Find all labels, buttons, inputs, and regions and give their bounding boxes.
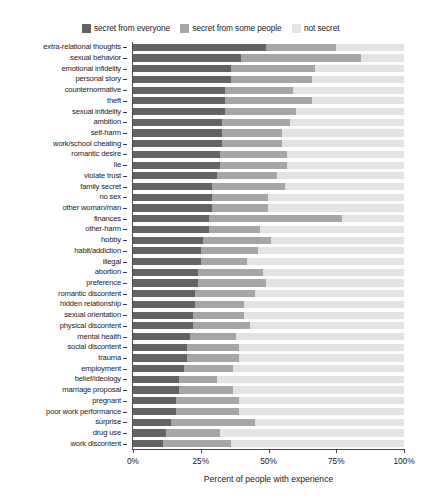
y-axis-tick — [123, 444, 127, 445]
legend-label: not secret — [304, 24, 339, 32]
bar-segment — [220, 429, 404, 436]
y-axis-label: abortion — [95, 268, 121, 276]
bar-segment — [179, 376, 217, 383]
bar-segment — [290, 119, 404, 126]
bar-segment — [222, 119, 290, 126]
bar-segment — [193, 312, 244, 319]
y-axis-tick — [123, 294, 127, 295]
y-axis-label: employment — [81, 365, 121, 373]
bar-segment — [225, 108, 295, 115]
y-axis-label: family secret — [80, 183, 121, 191]
bar-segment — [247, 258, 404, 265]
bar-row — [133, 119, 404, 126]
bar-segment — [233, 386, 404, 393]
bar-row — [133, 140, 404, 147]
bar-segment — [342, 215, 404, 222]
bar-segment — [209, 215, 342, 222]
bar-segment — [260, 226, 404, 233]
bar-row — [133, 87, 404, 94]
bar-segment — [133, 194, 212, 201]
bar-row — [133, 312, 404, 319]
bar-segment — [336, 44, 404, 51]
y-axis-tick — [123, 304, 127, 305]
bar-segment — [133, 408, 176, 415]
bar-row — [133, 97, 404, 104]
y-axis-label: marriage proposal — [62, 386, 121, 394]
legend-swatch-icon — [292, 24, 301, 33]
x-axis-tick-label: 50% — [260, 456, 277, 466]
y-axis-tick — [123, 144, 127, 145]
bar-segment — [222, 129, 282, 136]
y-axis-label: work discontent — [70, 440, 121, 448]
y-axis-tick — [123, 379, 127, 380]
x-axis-tick-label: 25% — [192, 456, 209, 466]
bar-segment — [133, 333, 190, 340]
y-axis-label: mental health — [77, 333, 121, 341]
bar-segment — [166, 429, 220, 436]
bar-segment — [133, 376, 179, 383]
bar-segment — [201, 247, 258, 254]
bar-segment — [268, 204, 404, 211]
bar-row — [133, 365, 404, 372]
bar-row — [133, 386, 404, 393]
y-axis-label: surprise — [95, 418, 121, 426]
bar-segment — [133, 108, 225, 115]
bar-segment — [241, 54, 360, 61]
bar-segment — [212, 194, 269, 201]
bar-segment — [187, 344, 238, 351]
y-axis-tick — [123, 112, 127, 113]
y-axis-tick — [123, 358, 127, 359]
y-axis-tick — [123, 58, 127, 59]
bar-segment — [133, 129, 222, 136]
bar-segment — [133, 204, 212, 211]
bar-segment — [176, 397, 238, 404]
bar-row — [133, 290, 404, 297]
bar-row — [133, 215, 404, 222]
y-axis-tick — [123, 90, 127, 91]
bar-row — [133, 344, 404, 351]
bar-segment — [244, 312, 404, 319]
bar-row — [133, 258, 404, 265]
bar-segment — [133, 151, 220, 158]
y-axis-label: other woman/man — [62, 204, 121, 212]
x-axis-tick — [336, 449, 337, 453]
bar-segment — [133, 279, 198, 286]
bar-row — [133, 237, 404, 244]
y-axis-label: no sex — [100, 193, 121, 201]
x-axis-tick-label: 0% — [127, 456, 139, 466]
y-axis-label: illegal — [103, 258, 121, 266]
y-axis-tick — [123, 165, 127, 166]
y-axis-tick — [123, 262, 127, 263]
x-axis-tick-label: 100% — [393, 456, 414, 466]
y-axis-tick — [123, 101, 127, 102]
y-axis-tick — [123, 283, 127, 284]
y-axis-tick — [123, 197, 127, 198]
bar-row — [133, 129, 404, 136]
y-axis-label: personal story — [75, 75, 121, 83]
y-axis-label: poor work performance — [46, 408, 121, 416]
bar-segment — [225, 97, 312, 104]
bar-segment — [255, 290, 404, 297]
bar-segment — [133, 258, 201, 265]
x-axis-tick — [133, 449, 134, 453]
bar-segment — [233, 365, 404, 372]
bar-segment — [133, 172, 217, 179]
bar-segment — [133, 162, 220, 169]
y-axis-label: preference — [86, 279, 121, 287]
y-axis-label: sexual behavior — [70, 54, 121, 62]
legend-entry: secret from some people — [180, 24, 282, 33]
bar-segment — [133, 215, 209, 222]
bar-segment — [133, 386, 179, 393]
y-axis-label: sexual infidelity — [72, 108, 121, 116]
bar-segment — [287, 151, 404, 158]
y-axis-tick — [123, 337, 127, 338]
bar-row — [133, 376, 404, 383]
bar-segment — [266, 44, 336, 51]
y-axis-label: finances — [94, 215, 121, 223]
bar-segment — [133, 44, 266, 51]
bar-segment — [133, 140, 222, 147]
bar-segment — [133, 419, 171, 426]
bar-segment — [133, 301, 195, 308]
y-axis-label: drug use — [93, 429, 121, 437]
bar-segment — [217, 376, 404, 383]
